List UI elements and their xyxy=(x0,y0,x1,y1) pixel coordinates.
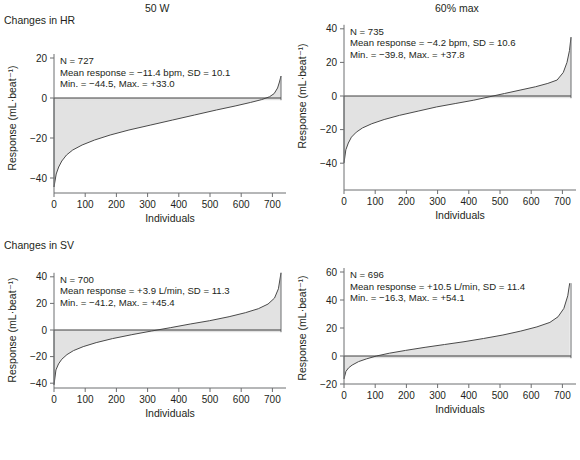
x-tick-label-200: 200 xyxy=(398,196,415,207)
annotation-line-2-top-right: Mean response = −4.2 bpm, SD = 10.6 xyxy=(350,37,516,48)
x-axis-title-bottom-left: Individuals xyxy=(145,407,195,419)
y-axis-title-top-right: Response (mL·beat⁻¹) xyxy=(296,43,308,148)
x-tick-label-300: 300 xyxy=(139,199,156,210)
x-tick-label-100: 100 xyxy=(77,199,94,210)
chart-panel-bottom-right: 6040200−200100200300400500600700Individu… xyxy=(290,225,580,460)
y-axis-title-bottom-left: Response (mL·beat⁻¹) xyxy=(6,277,18,382)
annotation-line-2-top-left: Mean response = −11.4 bpm, SD = 10.1 xyxy=(60,67,230,78)
y-tick-label-20: 20 xyxy=(36,53,48,64)
annotation-line-3-bottom-right: Min. = −16.3, Max. = +54.1 xyxy=(350,292,465,303)
x-axis-title-top-left: Individuals xyxy=(145,212,195,224)
annotation-line-3-bottom-left: Min. = −41.2, Max. = +45.4 xyxy=(60,297,175,308)
x-tick-label-300: 300 xyxy=(429,390,446,401)
x-tick-label-100: 100 xyxy=(367,390,384,401)
x-tick-label-0: 0 xyxy=(341,390,347,401)
x-tick-label-600: 600 xyxy=(233,199,250,210)
y-tick-label-40: 40 xyxy=(36,271,48,282)
y-tick-label-0: 0 xyxy=(41,93,47,104)
x-tick-label-600: 600 xyxy=(523,390,540,401)
y-tick-label--40: −40 xyxy=(30,173,47,184)
chart-panel-top-left: 200−20−400100200300400500600700Individua… xyxy=(0,0,290,235)
annotation-line-3-top-left: Min. = −44.5, Max. = +33.0 xyxy=(60,78,175,89)
x-axis-title-bottom-right: Individuals xyxy=(435,403,485,415)
y-tick-label-0: 0 xyxy=(41,325,47,336)
annotation-line-1-bottom-left: N = 700 xyxy=(60,274,94,285)
y-tick-label-20: 20 xyxy=(326,323,338,334)
x-tick-label-0: 0 xyxy=(51,199,57,210)
y-tick-label-20: 20 xyxy=(326,57,338,68)
chart-svg-bottom-left: 40200−20−400100200300400500600700Individ… xyxy=(0,225,290,460)
chart-svg-top-left: 200−20−400100200300400500600700Individua… xyxy=(0,0,290,235)
chart-panel-bottom-left: 40200−20−400100200300400500600700Individ… xyxy=(0,225,290,460)
chart-svg-top-right: 40200−20−400100200300400500600700Individ… xyxy=(290,0,580,235)
x-tick-label-300: 300 xyxy=(429,196,446,207)
x-tick-label-200: 200 xyxy=(398,390,415,401)
x-tick-label-200: 200 xyxy=(108,199,125,210)
y-tick-label--20: −20 xyxy=(30,133,47,144)
y-tick-label--40: −40 xyxy=(30,378,47,389)
x-tick-label-700: 700 xyxy=(264,199,281,210)
y-axis-title-top-left: Response (mL·beat⁻¹) xyxy=(6,65,18,170)
annotation-line-1-top-left: N = 727 xyxy=(60,55,94,66)
x-tick-label-500: 500 xyxy=(492,196,509,207)
x-tick-label-600: 600 xyxy=(523,196,540,207)
y-tick-label-60: 60 xyxy=(326,267,338,278)
chart-panel-top-right: 40200−20−400100200300400500600700Individ… xyxy=(290,0,580,235)
annotation-line-2-bottom-right: Mean response = +10.5 L/min, SD = 11.4 xyxy=(350,281,526,292)
x-tick-label-300: 300 xyxy=(139,394,156,405)
x-tick-label-500: 500 xyxy=(202,394,219,405)
x-tick-label-700: 700 xyxy=(554,390,571,401)
y-tick-label--20: −20 xyxy=(30,351,47,362)
x-tick-label-600: 600 xyxy=(233,394,250,405)
x-tick-label-500: 500 xyxy=(202,199,219,210)
x-tick-label-700: 700 xyxy=(264,394,281,405)
chart-area-fill-top-left xyxy=(54,76,281,187)
annotation-line-1-bottom-right: N = 696 xyxy=(350,269,384,280)
annotation-line-3-top-right: Min. = −39.8, Max. = +37.8 xyxy=(350,49,465,60)
x-tick-label-0: 0 xyxy=(341,196,347,207)
y-tick-label--40: −40 xyxy=(320,158,337,169)
y-tick-label--20: −20 xyxy=(320,124,337,135)
x-tick-label-700: 700 xyxy=(554,196,571,207)
y-axis-title-bottom-right: Response (mL·beat⁻¹) xyxy=(296,275,308,380)
y-tick-label-20: 20 xyxy=(36,298,48,309)
y-tick-label-40: 40 xyxy=(326,23,338,34)
annotation-line-2-bottom-left: Mean response = +3.9 L/min, SD = 11.3 xyxy=(60,285,230,296)
y-tick-label-40: 40 xyxy=(326,295,338,306)
x-tick-label-400: 400 xyxy=(170,394,187,405)
x-tick-label-400: 400 xyxy=(170,199,187,210)
y-tick-label-0: 0 xyxy=(331,351,337,362)
x-tick-label-100: 100 xyxy=(77,394,94,405)
y-tick-label--20: −20 xyxy=(320,379,337,390)
y-tick-label-0: 0 xyxy=(331,91,337,102)
x-axis-title-top-right: Individuals xyxy=(435,209,485,221)
x-tick-label-200: 200 xyxy=(108,394,125,405)
x-tick-label-400: 400 xyxy=(460,390,477,401)
annotation-line-1-top-right: N = 735 xyxy=(350,26,384,37)
x-tick-label-500: 500 xyxy=(492,390,509,401)
x-tick-label-0: 0 xyxy=(51,394,57,405)
x-tick-label-400: 400 xyxy=(460,196,477,207)
chart-svg-bottom-right: 6040200−200100200300400500600700Individu… xyxy=(290,225,580,460)
x-tick-label-100: 100 xyxy=(367,196,384,207)
